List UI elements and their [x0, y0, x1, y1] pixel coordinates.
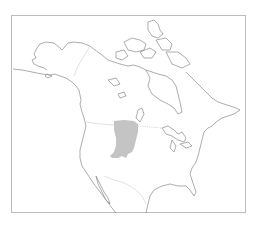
- distribution-range: [110, 120, 138, 158]
- north-america-map: [0, 0, 258, 227]
